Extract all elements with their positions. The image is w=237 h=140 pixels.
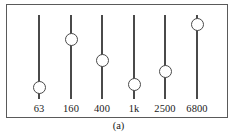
slider-track-160[interactable] bbox=[70, 15, 72, 99]
slider-band-2500[interactable]: 2500 bbox=[148, 5, 182, 119]
slider-band-6800[interactable]: 6800 bbox=[180, 5, 214, 119]
slider-knob-400[interactable] bbox=[96, 54, 109, 67]
slider-knob-63[interactable] bbox=[33, 81, 46, 94]
slider-knob-6800[interactable] bbox=[191, 18, 204, 31]
equalizer-figure: 63 160 400 1k 2500 6 bbox=[0, 0, 237, 140]
band-label-2500: 2500 bbox=[148, 103, 182, 114]
figure-caption: (a) bbox=[0, 120, 237, 131]
slider-band-400[interactable]: 400 bbox=[85, 5, 119, 119]
band-label-1k: 1k bbox=[117, 103, 151, 114]
slider-band-63[interactable]: 63 bbox=[22, 5, 56, 119]
slider-knob-2500[interactable] bbox=[159, 65, 172, 78]
band-label-160: 160 bbox=[54, 103, 88, 114]
band-label-400: 400 bbox=[85, 103, 119, 114]
slider-band-1k[interactable]: 1k bbox=[117, 5, 151, 119]
slider-knob-160[interactable] bbox=[65, 33, 78, 46]
slider-band-160[interactable]: 160 bbox=[54, 5, 88, 119]
graphic-equalizer-panel: 63 160 400 1k 2500 6 bbox=[6, 4, 228, 118]
slider-knob-1k[interactable] bbox=[128, 78, 141, 91]
band-label-6800: 6800 bbox=[180, 103, 214, 114]
band-label-63: 63 bbox=[22, 103, 56, 114]
slider-track-2500[interactable] bbox=[164, 15, 166, 99]
